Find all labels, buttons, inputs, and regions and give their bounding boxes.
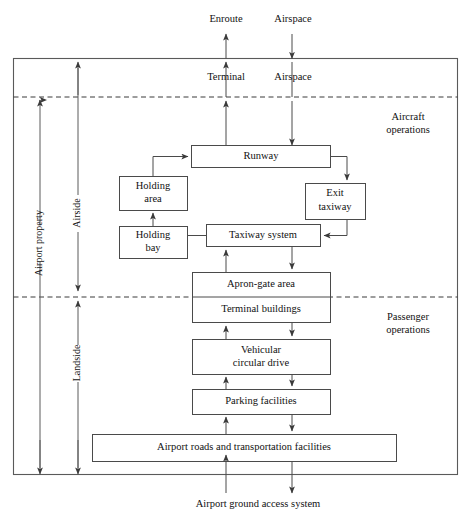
- label-terminal: Terminal: [207, 71, 245, 82]
- connector-runway-to-exit-taxiway: [331, 157, 348, 181]
- label-passenger-operations-line1: Passenger: [387, 311, 429, 322]
- label-airport-ground-access-system: Airport ground access system: [196, 498, 321, 509]
- label-holding-bay-line1: Holding: [136, 229, 171, 240]
- label-terminal-buildings: Terminal buildings: [221, 303, 300, 314]
- label-airport-property: Airport property: [33, 210, 44, 276]
- label-airspace-terminal: Airspace: [274, 71, 312, 82]
- diagram-canvas: Enroute Airspace Terminal Airspace Airpo…: [0, 0, 471, 526]
- airport-system-diagram: Enroute Airspace Terminal Airspace Airpo…: [0, 0, 471, 526]
- label-holding-area-line1: Holding: [136, 180, 171, 191]
- label-runway: Runway: [244, 150, 280, 161]
- label-apron-gate-area: Apron-gate area: [227, 278, 295, 289]
- connector-exit-taxiway-to-taxiway-system: [324, 220, 347, 236]
- label-holding-area-line2: area: [144, 193, 162, 204]
- label-aircraft-operations-line1: Aircraft: [391, 111, 424, 122]
- label-airport-roads: Airport roads and transportation facilit…: [157, 441, 331, 452]
- label-enroute: Enroute: [209, 13, 243, 24]
- label-parking-facilities: Parking facilities: [225, 395, 296, 406]
- label-holding-bay-line2: bay: [145, 242, 161, 253]
- label-vehicular-line1: Vehicular: [241, 344, 282, 355]
- label-exit-taxiway-line1: Exit: [326, 187, 344, 198]
- label-passenger-operations-line2: operations: [386, 324, 430, 335]
- label-taxiway-system: Taxiway system: [229, 229, 297, 240]
- label-airspace-top: Airspace: [274, 13, 312, 24]
- connector-holding-area-to-runway: [153, 157, 188, 177]
- label-landside: Landside: [71, 344, 82, 381]
- label-exit-taxiway-line2: taxiway: [318, 201, 352, 212]
- label-aircraft-operations-line2: operations: [386, 124, 430, 135]
- label-vehicular-line2: circular drive: [233, 357, 290, 368]
- label-airside: Airside: [71, 198, 82, 228]
